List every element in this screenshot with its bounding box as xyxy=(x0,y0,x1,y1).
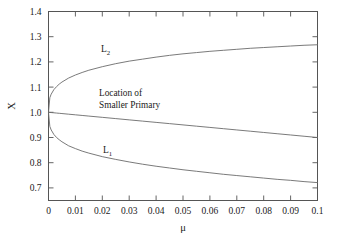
primary-annotation-line2: Smaller Primary xyxy=(99,100,161,110)
x-tick-label: 0.09 xyxy=(282,206,299,216)
y-tick-label: 1.4 xyxy=(30,7,42,17)
primary-annotation-line1: Location of xyxy=(99,88,143,98)
l1-subscript: 1 xyxy=(109,150,112,157)
y-tick-label: 1.2 xyxy=(30,57,42,67)
x-axis-title: μ xyxy=(180,222,186,233)
chart-container: 0.70.80.91.01.11.21.31.4 00.010.020.030.… xyxy=(0,0,343,244)
y-tick-label: 1.3 xyxy=(30,32,42,42)
y-tick-label: 0.9 xyxy=(30,133,42,143)
x-axis-tick-labels: 00.010.020.030.040.050.060.070.080.090.1 xyxy=(46,206,324,216)
x-tick-label: 0 xyxy=(46,206,51,216)
data-curves xyxy=(49,45,318,183)
x-tick-label: 0.05 xyxy=(175,206,192,216)
x-tick-label: 0.03 xyxy=(121,206,138,216)
x-tick-label: 0.01 xyxy=(67,206,84,216)
y-tick-label: 1.1 xyxy=(30,83,42,93)
curve-label-l1: L1 xyxy=(103,145,112,157)
x-tick-label: 0.07 xyxy=(228,206,245,216)
x-tick-label: 0.02 xyxy=(94,206,111,216)
x-tick-label: 0.1 xyxy=(312,206,324,216)
l2-subscript: 2 xyxy=(107,49,111,56)
y-axis-tick-labels: 0.70.80.91.01.11.21.31.4 xyxy=(30,7,42,193)
curve-label-l2: L2 xyxy=(101,44,111,56)
y-axis-title: X xyxy=(6,102,17,110)
x-tick-label: 0.08 xyxy=(255,206,272,216)
curve-l1 xyxy=(49,112,318,182)
y-tick-label: 0.7 xyxy=(30,183,42,193)
lagrange-point-chart: 0.70.80.91.01.11.21.31.4 00.010.020.030.… xyxy=(0,0,343,244)
y-tick-label: 1.0 xyxy=(30,108,42,118)
curve-smaller-primary xyxy=(49,112,318,137)
x-axis-ticks xyxy=(49,12,318,201)
plot-frame xyxy=(49,12,318,201)
x-tick-label: 0.06 xyxy=(202,206,219,216)
y-axis-ticks xyxy=(49,12,318,188)
x-tick-label: 0.04 xyxy=(148,206,165,216)
curve-l2 xyxy=(49,45,318,113)
y-tick-label: 0.8 xyxy=(30,158,42,168)
